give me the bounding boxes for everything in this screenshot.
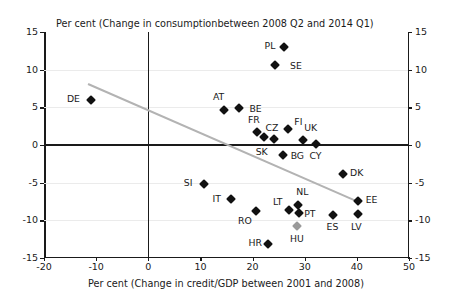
x-tick-label: 30	[299, 261, 311, 272]
data-point-label-dk: DK	[350, 168, 363, 178]
y-tick	[40, 107, 44, 108]
data-point-uk[interactable]	[298, 135, 308, 145]
y-tick-label: 5	[32, 102, 38, 112]
x-tick-label: 20	[247, 261, 259, 272]
x-tick-label: 10	[194, 261, 206, 272]
data-point-ro[interactable]	[251, 206, 261, 216]
data-point-label-ee: EE	[366, 195, 378, 205]
data-point-label-lv: LV	[351, 222, 362, 232]
gridline-y	[44, 183, 409, 184]
data-point-label-de: DE	[67, 94, 80, 104]
data-point-label-it: IT	[212, 194, 220, 204]
top-axis-title: Per cent (Change in consumptionbetween 2…	[56, 18, 374, 30]
y-tick	[408, 145, 412, 146]
scatter-chart: Per cent (Change in consumptionbetween 2…	[0, 0, 452, 300]
x-tick-label: 0	[145, 261, 151, 272]
data-point-lt[interactable]	[284, 205, 294, 215]
y-tick-label: 0	[32, 140, 38, 150]
data-point-pt[interactable]	[294, 208, 304, 218]
data-point-label-sk: SK	[256, 147, 268, 157]
data-point-it[interactable]	[226, 194, 236, 204]
data-point-label-bg: BG	[291, 151, 304, 161]
y-tick	[408, 107, 412, 108]
data-point-dk[interactable]	[338, 169, 348, 179]
y-tick-label: 10	[26, 65, 38, 75]
data-point-ee[interactable]	[353, 196, 363, 206]
data-point-bg[interactable]	[278, 150, 288, 160]
data-point-label-cz: CZ	[266, 123, 279, 133]
y-tick-label: -10	[415, 215, 431, 225]
plot-area: -15-15-10-10-5-5005510101515-20-10010203…	[44, 32, 409, 258]
data-point-hr[interactable]	[263, 239, 273, 249]
data-point-label-ro: RO	[238, 216, 252, 226]
y-tick	[40, 70, 44, 71]
data-point-pl[interactable]	[279, 42, 289, 52]
y-tick-label: -10	[22, 215, 38, 225]
y-tick-label: -5	[29, 178, 38, 188]
x-tick-label: -10	[88, 261, 104, 272]
x-tick-label: 50	[403, 261, 415, 272]
data-point-at[interactable]	[219, 105, 229, 115]
data-point-label-fi: FI	[294, 117, 302, 127]
y-tick	[408, 70, 412, 71]
y-tick-label: -15	[415, 253, 431, 263]
y-tick	[40, 145, 44, 146]
y-tick	[408, 220, 412, 221]
data-point-lv[interactable]	[353, 209, 363, 219]
data-point-se[interactable]	[270, 60, 280, 70]
y-tick	[408, 32, 412, 33]
y-tick-label: -5	[415, 178, 424, 188]
data-point-hu[interactable]	[292, 221, 302, 231]
data-point-label-nl: NL	[296, 187, 308, 197]
data-point-label-at: AT	[213, 92, 224, 102]
data-point-cz[interactable]	[269, 134, 279, 144]
y-tick	[40, 220, 44, 221]
y-tick-label: 0	[415, 140, 421, 150]
data-point-label-hr: HR	[248, 238, 261, 248]
data-point-label-uk: UK	[304, 123, 317, 133]
data-point-label-pl: PL	[265, 41, 276, 51]
data-point-label-lt: LT	[273, 197, 283, 207]
data-point-de[interactable]	[86, 95, 96, 105]
data-point-sk[interactable]	[259, 133, 269, 143]
y-tick	[40, 183, 44, 184]
data-point-label-cy: CY	[309, 151, 321, 161]
y-tick	[408, 183, 412, 184]
y-tick-label: 15	[415, 27, 427, 37]
y-tick-label: 10	[415, 65, 427, 75]
data-point-be[interactable]	[234, 103, 244, 113]
data-point-si[interactable]	[199, 179, 209, 189]
data-point-label-be: BE	[249, 104, 261, 114]
data-point-label-pt: PT	[304, 209, 315, 219]
data-point-cy[interactable]	[311, 139, 321, 149]
x-axis-title: Per cent (Change in credit/GDP between 2…	[88, 278, 364, 290]
bottom-axis	[44, 257, 409, 259]
data-point-label-fr: FR	[248, 115, 260, 125]
x-tick-label: -20	[36, 261, 52, 272]
data-point-es[interactable]	[328, 210, 338, 220]
data-point-label-si: SI	[184, 178, 193, 188]
zero-line-vertical	[148, 32, 149, 258]
data-point-label-es: ES	[327, 222, 339, 232]
data-point-fi[interactable]	[283, 124, 293, 134]
gridline-y	[44, 70, 409, 71]
y-tick-label: 5	[415, 102, 421, 112]
y-tick	[40, 32, 44, 33]
x-tick-label: 40	[351, 261, 363, 272]
data-point-label-hu: HU	[290, 234, 304, 244]
data-point-label-se: SE	[290, 61, 302, 71]
y-tick-label: 15	[26, 27, 38, 37]
